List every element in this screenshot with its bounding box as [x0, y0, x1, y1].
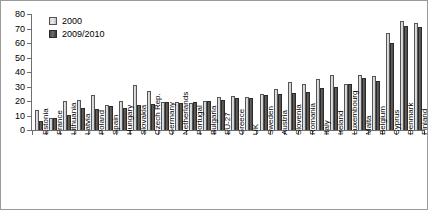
x-label-cell: Luxembourg: [341, 135, 355, 209]
x-label-cell: Italy: [313, 135, 327, 209]
x-label-cell: Ireland: [327, 135, 341, 209]
x-label-cell: Estonia: [32, 135, 46, 209]
x-label-cell: Austria: [271, 135, 285, 209]
x-axis-label: Lithuania: [70, 103, 78, 135]
x-axis-label: Sweden: [267, 106, 275, 135]
x-axis-label: Denmark: [407, 103, 415, 135]
x-label-cell: UK: [242, 135, 256, 209]
x-axis-label: Belgium: [379, 106, 387, 135]
x-axis-label: France: [56, 110, 64, 135]
x-axis-label: Germany: [168, 102, 176, 135]
x-label-cell: Denmark: [397, 135, 411, 209]
x-axis-label: Romania: [309, 103, 317, 135]
y-tick-label-60: 60: [1, 39, 25, 48]
y-tick-label-10: 10: [1, 112, 25, 121]
y-tick-label-40: 40: [1, 68, 25, 77]
y-tick-label-20: 20: [1, 97, 25, 106]
x-axis-label: Hungary: [126, 105, 134, 135]
x-axis-label: Malta: [365, 115, 373, 135]
x-axis-label: Latvia: [84, 114, 92, 135]
x-axis-label: UK: [252, 124, 260, 135]
x-label-cell: Czech Rep.: [144, 135, 158, 209]
y-tick-label-30: 30: [1, 83, 25, 92]
x-axis-label: Italy: [323, 120, 331, 135]
x-label-cell: EU-27: [214, 135, 228, 209]
x-label-cell: Hungary: [116, 135, 130, 209]
bar-chart: 01020304050607080 2000 2009/2010 Estonia…: [0, 0, 428, 210]
x-label-cell: Malta: [355, 135, 369, 209]
x-label-cell: Greece: [228, 135, 242, 209]
x-label-cell: Romania: [299, 135, 313, 209]
x-label-cell: Finland: [411, 135, 425, 209]
x-axis-labels: EstoniaFranceLithuaniaLatviaPolandSpainH…: [32, 135, 425, 209]
y-tick-label-80: 80: [1, 10, 25, 19]
y-tick-label-50: 50: [1, 54, 25, 63]
x-label-cell: Netherlands: [172, 135, 186, 209]
x-label-cell: Poland: [88, 135, 102, 209]
x-label-cell: Slovenia: [285, 135, 299, 209]
x-axis-label: Luxembourg: [351, 91, 359, 135]
x-axis-label: EU-27: [224, 112, 232, 135]
x-label-cell: Spain: [102, 135, 116, 209]
x-label-cell: Slovakia: [130, 135, 144, 209]
x-axis-label: Ireland: [337, 111, 345, 135]
x-axis-label: Slovakia: [140, 105, 148, 135]
x-axis-label: Czech Rep.: [154, 93, 162, 135]
y-tick-label-70: 70: [1, 25, 25, 34]
x-axis-label: Poland: [98, 110, 106, 135]
x-label-cell: Germany: [158, 135, 172, 209]
x-axis-label: Cyprus: [393, 110, 401, 135]
x-axis-label: Portugal: [196, 105, 204, 135]
y-tick-label-0: 0: [1, 126, 25, 135]
x-axis-label: Slovenia: [295, 104, 303, 135]
x-label-cell: Bulgaria: [200, 135, 214, 209]
x-axis-label: Bulgaria: [210, 106, 218, 135]
x-label-cell: Lithuania: [60, 135, 74, 209]
x-label-cell: Belgium: [369, 135, 383, 209]
x-label-cell: France: [46, 135, 60, 209]
x-axis-label: Greece: [238, 109, 246, 135]
x-label-cell: Latvia: [74, 135, 88, 209]
x-axis-label: Austria: [281, 110, 289, 135]
x-label-cell: Cyprus: [383, 135, 397, 209]
x-axis-label: Spain: [112, 115, 120, 135]
x-label-cell: Sweden: [257, 135, 271, 209]
x-axis-label: Estonia: [42, 108, 50, 135]
x-axis-label: Finland: [421, 109, 428, 135]
x-axis-label: Netherlands: [182, 92, 190, 135]
x-label-cell: Portugal: [186, 135, 200, 209]
